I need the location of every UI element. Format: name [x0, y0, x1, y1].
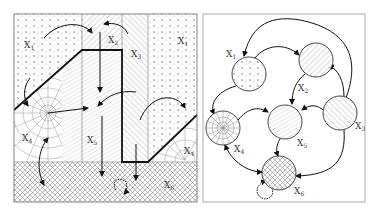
node-x1	[232, 57, 266, 91]
transition-graph-panel: X1 X2 X3 X4 X5 X6	[203, 14, 365, 202]
node-x4	[206, 111, 240, 145]
node-x5	[268, 105, 302, 139]
partition-panel: X1 X1 X2 X3 X4 X4 X5 X6	[0, 14, 217, 202]
region-x3	[122, 14, 148, 162]
node-x6	[262, 156, 296, 190]
region-x5-left	[62, 50, 82, 162]
node-x3	[323, 96, 357, 130]
node-x2	[299, 43, 333, 77]
diagram-canvas: X1 X1 X2 X3 X4 X4 X5 X6	[0, 0, 379, 214]
